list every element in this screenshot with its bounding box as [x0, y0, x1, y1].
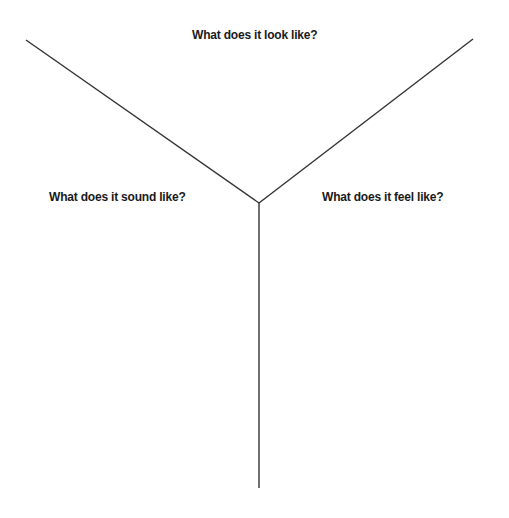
y-chart-canvas: What does it look like? What does it sou… — [0, 0, 509, 518]
label-feel-like: What does it feel like? — [322, 190, 443, 204]
right-arm-line — [259, 39, 473, 203]
left-arm-line — [26, 40, 259, 203]
label-sound-like: What does it sound like? — [49, 190, 186, 204]
y-chart-lines — [0, 0, 509, 518]
label-look-like: What does it look like? — [192, 28, 317, 42]
